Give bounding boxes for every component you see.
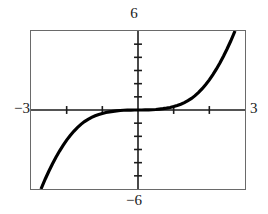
- x-axis-min-label: −3: [2, 101, 30, 116]
- y-axis-max-label: 6: [0, 6, 268, 21]
- x-axis-max-label: 3: [250, 101, 266, 116]
- graphing-calculator-screenshot: 6 −6 −3 3: [0, 0, 268, 214]
- graph-plot: [31, 31, 245, 189]
- graph-viewport: [30, 30, 246, 190]
- y-axis-min-label: −6: [0, 193, 268, 208]
